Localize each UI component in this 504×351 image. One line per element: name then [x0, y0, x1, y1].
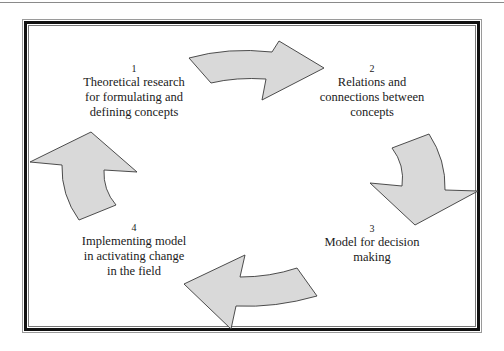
step-text-line: connections between [302, 90, 442, 105]
step-text-line: Theoretical research [64, 75, 204, 90]
step-number: 1 [64, 62, 204, 75]
step-text-line: making [302, 250, 442, 265]
step-text-line: Model for decision [302, 235, 442, 250]
step-number: 2 [302, 62, 442, 75]
step-text-line: for formulating and [64, 90, 204, 105]
step-number: 4 [64, 221, 204, 234]
step-2-label: 2 Relations and connections between conc… [302, 62, 442, 120]
step-3-label: 3 Model for decision making [302, 222, 442, 265]
step-text-line: Relations and [302, 75, 442, 90]
step-number: 3 [302, 222, 442, 235]
step-text-line: in the field [64, 264, 204, 279]
cycle-arrows [0, 0, 504, 351]
step-text-line: in activating change [64, 249, 204, 264]
arrow-up-icon [30, 132, 137, 220]
step-text-line: Implementing model [64, 234, 204, 249]
step-text-line: defining concepts [64, 105, 204, 120]
step-text-line: concepts [302, 105, 442, 120]
arrow-down-icon [370, 134, 478, 225]
step-1-label: 1 Theoretical research for formulating a… [64, 62, 204, 120]
step-4-label: 4 Implementing model in activating chang… [64, 221, 204, 279]
